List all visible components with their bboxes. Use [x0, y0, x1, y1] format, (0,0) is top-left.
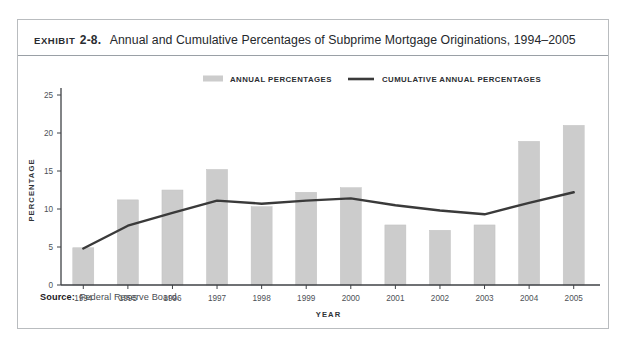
legend-label-annual: ANNUAL PERCENTAGES — [230, 75, 332, 84]
bar-2001 — [385, 225, 406, 285]
bar-1998 — [251, 207, 272, 285]
x-tick-label-1999: 1999 — [297, 294, 316, 303]
bar-2000 — [340, 188, 361, 285]
x-tick-label-1998: 1998 — [253, 294, 272, 303]
bar-1994 — [73, 248, 94, 285]
legend-swatch-annual — [203, 76, 223, 82]
exhibit-number: 2-8. — [80, 33, 101, 47]
x-tick-label-2000: 2000 — [342, 294, 361, 303]
chart-plot-area: 0510152025199419951996199719981999200020… — [18, 56, 610, 330]
y-tick-label-10: 10 — [44, 205, 54, 214]
exhibit-title-row: EXHIBIT 2-8. Annual and Cumulative Perce… — [18, 20, 608, 56]
source-note: Source: Federal Reserve Board. — [40, 292, 179, 302]
source-value: Federal Reserve Board. — [80, 292, 180, 302]
y-tick-label-15: 15 — [44, 167, 54, 176]
x-tick-label-2002: 2002 — [431, 294, 450, 303]
x-tick-label-2001: 2001 — [386, 294, 405, 303]
y-tick-label-5: 5 — [48, 243, 53, 252]
exhibit-label: EXHIBIT — [34, 35, 75, 46]
bar-1997 — [207, 169, 228, 285]
cumulative-percentages-line — [83, 192, 573, 248]
bar-2005 — [563, 125, 584, 285]
x-tick-label-2004: 2004 — [520, 294, 539, 303]
exhibit-figure-frame: EXHIBIT 2-8. Annual and Cumulative Perce… — [17, 19, 609, 329]
exhibit-title: Annual and Cumulative Percentages of Sub… — [110, 33, 576, 47]
bar-1996 — [162, 190, 183, 285]
x-tick-label-2003: 2003 — [475, 294, 494, 303]
bar-2002 — [429, 230, 450, 285]
bar-1999 — [296, 192, 317, 285]
bar-2004 — [519, 141, 540, 285]
x-tick-label-2005: 2005 — [565, 294, 584, 303]
x-axis-title: YEAR — [316, 310, 342, 319]
legend-label-cumulative: CUMULATIVE ANNUAL PERCENTAGES — [382, 75, 541, 84]
x-tick-label-1997: 1997 — [208, 294, 227, 303]
y-tick-label-25: 25 — [44, 91, 54, 100]
bar-2003 — [474, 225, 495, 285]
subprime-originations-chart: 0510152025199419951996199719981999200020… — [18, 56, 610, 330]
source-label: Source: — [40, 292, 75, 302]
y-tick-label-20: 20 — [44, 129, 54, 138]
bar-1995 — [117, 200, 138, 285]
y-axis-title: PERCENTAGE — [27, 158, 36, 221]
y-tick-label-0: 0 — [48, 281, 53, 290]
